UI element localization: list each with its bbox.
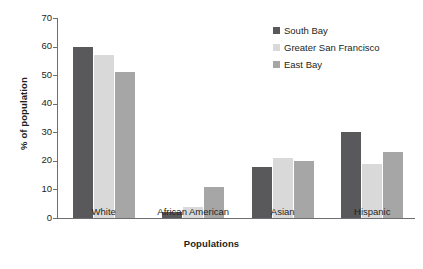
y-axis-tick: 10 — [57, 189, 58, 190]
y-axis-tick: 20 — [57, 161, 58, 162]
legend-item-label: South Bay — [284, 25, 328, 36]
legend-item-label: East Bay — [284, 59, 322, 70]
bar — [73, 47, 93, 218]
bar — [294, 161, 314, 218]
y-axis-tick-label: 10 — [41, 183, 52, 194]
y-axis-tick-label: 30 — [41, 126, 52, 137]
y-axis-tick-mark — [53, 189, 57, 190]
y-axis-tick-mark — [53, 104, 57, 105]
y-axis-tick-label: 60 — [41, 40, 52, 51]
bar — [94, 55, 114, 218]
legend-item-label: Greater San Francisco — [284, 42, 380, 53]
y-axis-tick-mark — [53, 161, 57, 162]
legend-item: East Bay — [273, 57, 380, 72]
y-axis-tick: 40 — [57, 104, 58, 105]
y-axis-tick: 60 — [57, 47, 58, 48]
y-axis-tick-mark — [53, 18, 57, 19]
y-axis-tick: 50 — [57, 75, 58, 76]
y-axis-tick-mark — [53, 47, 57, 48]
legend-swatch-icon — [273, 44, 280, 51]
bar — [115, 72, 135, 218]
x-axis-title: Populations — [0, 238, 423, 249]
y-axis-title: % of population — [18, 44, 29, 184]
y-axis-tick-mark — [53, 218, 57, 219]
bar — [252, 167, 272, 218]
y-axis-tick-mark — [53, 75, 57, 76]
bar-group — [162, 18, 224, 218]
legend-swatch-icon — [273, 61, 280, 68]
y-axis-tick-label: 20 — [41, 154, 52, 165]
y-axis-tick-label: 40 — [41, 97, 52, 108]
y-axis-line — [57, 18, 58, 218]
y-axis-tick: 70 — [57, 18, 58, 19]
legend-item: South Bay — [273, 23, 380, 38]
y-axis-tick: 0 — [57, 218, 58, 219]
legend-item: Greater San Francisco — [273, 40, 380, 55]
y-axis-tick-label: 50 — [41, 69, 52, 80]
bar-chart: % of population 010203040506070 WhiteAfr… — [0, 0, 423, 269]
y-axis-tick: 30 — [57, 132, 58, 133]
legend-swatch-icon — [273, 27, 280, 34]
y-axis-tick-label: 0 — [47, 212, 52, 223]
x-axis-line — [57, 218, 415, 219]
x-axis-category-label: African American — [157, 206, 229, 217]
x-axis-category-label: White — [92, 206, 116, 217]
y-axis-tick-mark — [53, 132, 57, 133]
x-axis-category-label: Hispanic — [354, 206, 390, 217]
x-axis-category-label: Asian — [271, 206, 295, 217]
bar-group — [73, 18, 135, 218]
y-axis-tick-label: 70 — [41, 12, 52, 23]
legend: South BayGreater San FranciscoEast Bay — [273, 23, 380, 74]
